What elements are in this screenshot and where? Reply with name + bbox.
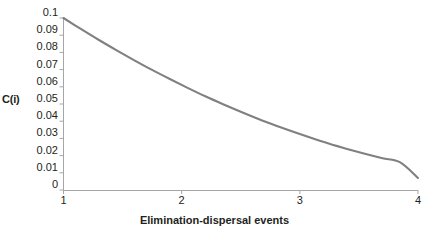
- axis-lines: [64, 18, 419, 191]
- y-axis-ticks: [60, 18, 64, 190]
- x-axis-tick-label: 2: [179, 194, 185, 207]
- x-axis-tick-labels: 1234: [0, 194, 429, 210]
- data-series-line: [64, 18, 419, 178]
- x-axis-tick-label: 4: [415, 194, 421, 207]
- x-axis-tick-label: 1: [60, 194, 66, 207]
- x-axis-title: Elimination-dispersal events: [0, 214, 429, 226]
- x-axis-tick-label: 3: [297, 194, 303, 207]
- chart-container: C(i) 0.10.090.080.070.060.050.040.030.02…: [0, 0, 429, 236]
